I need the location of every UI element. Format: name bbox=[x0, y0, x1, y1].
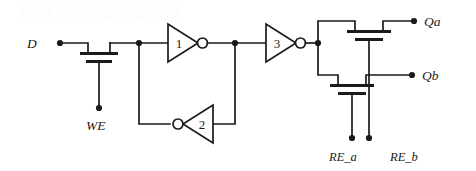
inverter-2: 2 bbox=[173, 105, 213, 143]
read-transistor-a bbox=[347, 18, 417, 141]
inverter-1-body bbox=[168, 24, 198, 62]
inverter-3-label: 3 bbox=[274, 36, 281, 51]
storage-node-b-net bbox=[208, 40, 267, 124]
re-a-terminal-dot bbox=[366, 135, 372, 141]
label-re-b: RE_b bbox=[389, 150, 418, 164]
junction-node-q bbox=[315, 40, 321, 46]
label-qb: Qb bbox=[422, 68, 439, 83]
junction-node-b bbox=[232, 40, 238, 46]
inverter-3: 3 bbox=[266, 24, 306, 62]
read-transistor-b bbox=[330, 72, 415, 141]
wire-d-to-pass-source bbox=[60, 43, 88, 52]
inverter-3-body bbox=[266, 24, 296, 62]
inverter-1-label: 1 bbox=[176, 36, 183, 51]
junction-node-a bbox=[136, 40, 142, 46]
circuit-schematic: ░░░░ ░░░░░░░░░░░░░░ 1 bbox=[0, 0, 476, 171]
wire-node-a-to-inv2-output bbox=[139, 43, 170, 124]
inverter-3-bubble bbox=[296, 38, 306, 48]
label-qa: Qa bbox=[424, 14, 441, 29]
inverter-1: 1 bbox=[168, 24, 208, 62]
schematic-canvas: 1 2 3 bbox=[0, 0, 476, 171]
d-input-net bbox=[57, 40, 88, 52]
wire-node-b-to-inv2-input bbox=[213, 43, 235, 124]
write-pass-transistor bbox=[80, 43, 118, 111]
wire-read-a-drain-to-qa bbox=[383, 21, 414, 30]
wire-read-b-drain-to-qb bbox=[366, 75, 412, 84]
inverter-1-bubble bbox=[198, 38, 208, 48]
storage-node-a-net bbox=[110, 40, 170, 124]
qb-terminal-dot bbox=[409, 72, 415, 78]
we-terminal-dot bbox=[96, 105, 102, 111]
wire-node-q-to-read-b-source bbox=[318, 43, 338, 84]
qa-terminal-dot bbox=[411, 18, 417, 24]
label-re-a: RE_a bbox=[328, 150, 357, 164]
inverter-2-bubble bbox=[173, 119, 183, 129]
label-we: WE bbox=[86, 118, 106, 133]
label-d: D bbox=[26, 36, 37, 51]
re-b-terminal-dot-lower bbox=[349, 135, 355, 141]
inverter-2-label: 2 bbox=[199, 117, 206, 132]
